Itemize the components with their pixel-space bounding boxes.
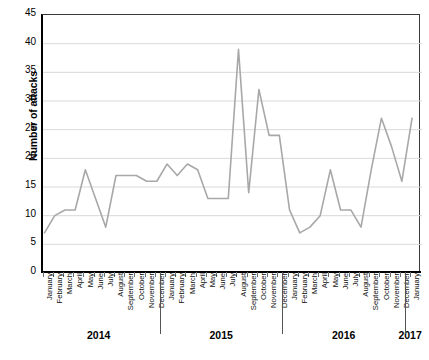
- x-tick-label: January: [168, 273, 176, 300]
- y-tick-label: 15: [14, 180, 36, 190]
- x-tick-label: July: [352, 273, 360, 287]
- x-tick-label: January: [291, 273, 299, 300]
- year-group-label: 2015: [191, 329, 251, 341]
- x-tick-label: October: [383, 273, 391, 300]
- x-tick-label: March: [66, 273, 74, 294]
- x-tick-label: May: [332, 273, 340, 287]
- data-series-line: [45, 49, 413, 232]
- x-tick-label: April: [321, 273, 329, 288]
- x-tick-label: June: [97, 273, 105, 289]
- y-tick-label: 20: [14, 151, 36, 161]
- x-tick-label: February: [178, 273, 186, 303]
- y-tick-label: 35: [14, 65, 36, 75]
- x-tick-label: January: [413, 273, 421, 300]
- year-separator: [160, 272, 161, 334]
- x-tick-label: April: [199, 273, 207, 288]
- x-tick-label: June: [342, 273, 350, 289]
- x-tick-label: June: [219, 273, 227, 289]
- line-chart: Number of attacks 454035302520151050 Jan…: [0, 0, 429, 360]
- y-tick-label: 40: [14, 37, 36, 47]
- y-tick-label: 30: [14, 94, 36, 104]
- plot-area: [41, 14, 420, 272]
- y-tick-label: 5: [14, 237, 36, 247]
- year-group-label: 2016: [314, 329, 374, 341]
- x-tick-label: November: [393, 273, 401, 308]
- x-tick-label: September: [250, 273, 258, 310]
- x-tick-label: May: [209, 273, 217, 287]
- x-tick-label: October: [260, 273, 268, 300]
- y-tick-label: 25: [14, 123, 36, 133]
- x-tick-label: August: [117, 273, 125, 297]
- year-group-label: 2014: [69, 329, 129, 341]
- y-tick-label: 0: [14, 266, 36, 276]
- x-tick-label: February: [56, 273, 64, 303]
- x-tick-label: May: [87, 273, 95, 287]
- x-tick-label: September: [372, 273, 380, 310]
- x-tick-label: March: [311, 273, 319, 294]
- x-tick-label: October: [138, 273, 146, 300]
- x-axis-tick-labels: JanuaryFebruaryMarchAprilMayJuneJulyAugu…: [41, 273, 421, 323]
- y-tick-label: 10: [14, 209, 36, 219]
- x-tick-label: July: [229, 273, 237, 287]
- y-tick-label: 45: [14, 8, 36, 18]
- year-separator: [405, 272, 406, 334]
- x-tick-label: February: [301, 273, 309, 303]
- x-tick-label: August: [362, 273, 370, 297]
- x-tick-label: January: [46, 273, 54, 300]
- x-tick-label: September: [127, 273, 135, 310]
- x-axis-year-groups: 2014201520162017: [41, 329, 421, 351]
- y-axis-tick-labels: 454035302520151050: [14, 0, 36, 360]
- x-tick-label: November: [148, 273, 156, 308]
- x-tick-label: November: [270, 273, 278, 308]
- x-tick-label: August: [240, 273, 248, 297]
- x-tick-label: April: [76, 273, 84, 288]
- x-tick-label: March: [189, 273, 197, 294]
- year-separator: [282, 272, 283, 334]
- plot-svg: [43, 15, 422, 273]
- x-tick-label: July: [107, 273, 115, 287]
